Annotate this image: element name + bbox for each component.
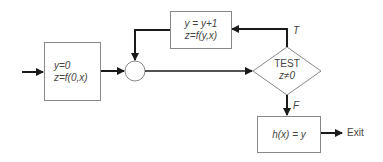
junction-circle — [125, 61, 145, 81]
update-box: y = y+1 z=f(y,x) — [170, 11, 232, 49]
loop-back-arrow — [135, 30, 170, 60]
output-text: h(x) = y — [272, 129, 306, 141]
true-branch-arrow — [232, 29, 287, 47]
false-label: F — [293, 100, 299, 111]
init-line-1: y=0 — [54, 60, 100, 72]
output-box: h(x) = y — [257, 116, 321, 153]
decision-text: TEST z≠0 — [257, 58, 317, 82]
update-line-1: y = y+1 — [185, 18, 218, 30]
decision-line-2: z≠0 — [257, 70, 317, 82]
init-line-2: z=f(0,x) — [54, 72, 100, 84]
exit-label: Exit — [347, 127, 364, 138]
update-line-2: z=f(y,x) — [185, 30, 217, 42]
init-box: y=0 z=f(0,x) — [44, 42, 101, 101]
decision-line-1: TEST — [257, 58, 317, 70]
true-label: T — [293, 25, 299, 36]
